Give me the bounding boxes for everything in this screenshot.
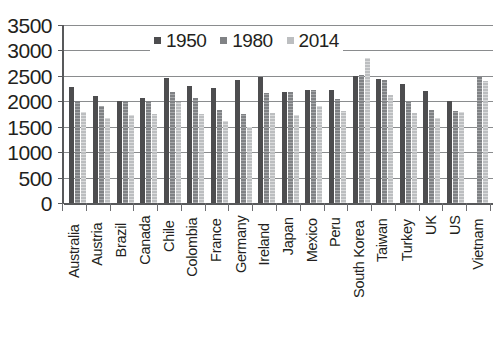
- bar-1980-japan: [288, 92, 293, 203]
- bar-1950-colombia: [187, 86, 192, 203]
- bar-1950-mexico: [305, 90, 310, 203]
- bar-2014-peru: [341, 111, 346, 203]
- bar-1980-france: [217, 110, 222, 203]
- x-axis-label-japan: Japan: [279, 210, 297, 314]
- bars-layer: [64, 25, 492, 203]
- bar-group: [113, 25, 137, 203]
- x-axis-label-text: UK: [423, 215, 438, 235]
- bar-1980-brazil: [123, 101, 128, 203]
- bar-1950-turkey: [400, 84, 405, 204]
- category-tick: [490, 203, 491, 211]
- x-axis-label-text: France: [209, 218, 224, 261]
- bar-2014-germany: [247, 127, 252, 203]
- x-axis-label-text: Mexico: [304, 218, 319, 262]
- series-2014-swatch: [287, 37, 294, 44]
- y-tick-label: 3500: [7, 15, 52, 36]
- x-axis-label-us: US: [445, 210, 463, 314]
- bar-group: [302, 25, 326, 203]
- y-tick-label: 3000: [7, 40, 52, 61]
- x-axis-label-text: Turkey: [400, 219, 415, 261]
- x-axis-label-australia: Australia: [65, 210, 83, 314]
- x-axis-label-mexico: Mexico: [303, 210, 321, 314]
- bar-1980-mexico: [311, 90, 316, 203]
- x-axis-label-south-korea: South Korea: [350, 210, 368, 314]
- x-axis-label-chile: Chile: [160, 210, 178, 314]
- x-axis: AustraliaAustriaBrazilCanadaChileColombi…: [62, 210, 490, 315]
- x-axis-label-text: Japan: [281, 217, 296, 255]
- bar-group: [326, 25, 350, 203]
- plot-area: [62, 25, 492, 203]
- bar-1980-us: [453, 111, 458, 203]
- bar-1950-austria: [93, 96, 98, 203]
- x-axis-label-taiwan: Taiwan: [374, 210, 392, 314]
- bar-1950-brazil: [117, 101, 122, 203]
- x-axis-label-colombia: Colombia: [184, 210, 202, 314]
- bar-group: [137, 25, 161, 203]
- x-axis-label-text: Peru: [328, 218, 343, 247]
- bar-group: [444, 25, 468, 203]
- bar-group: [66, 25, 90, 203]
- bar-1950-taiwan: [376, 79, 381, 203]
- x-axis-label-text: Vietnam: [471, 218, 486, 269]
- bar-group: [255, 25, 279, 203]
- x-axis-label-turkey: Turkey: [398, 210, 416, 314]
- x-axis-label-canada: Canada: [136, 210, 154, 314]
- bar-1950-us: [447, 101, 452, 203]
- legend-item-1950[interactable]: 1950: [154, 31, 206, 50]
- x-axis-label-germany: Germany: [231, 210, 249, 314]
- bar-2014-us: [459, 112, 464, 203]
- chart-legend: 195019802014: [150, 30, 343, 51]
- bar-group: [278, 25, 302, 203]
- x-axis-label-text: Brazil: [114, 223, 129, 257]
- bar-1980-turkey: [406, 102, 411, 203]
- x-axis-label-text: Colombia: [186, 218, 201, 277]
- bar-group: [420, 25, 444, 203]
- bar-group: [373, 25, 397, 203]
- y-tick-label: 2000: [7, 91, 52, 112]
- bar-1950-australia: [69, 87, 74, 203]
- legend-label: 1980: [232, 31, 272, 50]
- x-axis-label-text: Germany: [233, 215, 248, 273]
- x-axis-label-text: Chile: [162, 220, 177, 252]
- bar-2014-japan: [294, 115, 299, 203]
- bar-1980-australia: [75, 101, 80, 203]
- bar-1950-ireland: [258, 77, 263, 203]
- x-axis-label-austria: Austria: [89, 210, 107, 314]
- bar-1980-peru: [335, 99, 340, 203]
- bar-2014-australia: [81, 112, 86, 203]
- bar-1980-canada: [146, 101, 151, 203]
- bar-1980-germany: [241, 114, 246, 204]
- x-axis-label-france: France: [208, 210, 226, 314]
- x-axis-label-ireland: Ireland: [255, 210, 273, 314]
- x-axis-label-text: Ireland: [257, 223, 272, 265]
- legend-item-1980[interactable]: 1980: [220, 31, 272, 50]
- bar-1980-south-korea: [359, 75, 364, 203]
- legend-item-2014[interactable]: 2014: [287, 31, 339, 50]
- x-axis-label-text: Austria: [90, 222, 105, 265]
- bar-1950-germany: [235, 80, 240, 203]
- bar-2014-south-korea: [365, 58, 370, 203]
- bar-2014-turkey: [412, 113, 417, 203]
- legend-label: 2014: [299, 31, 339, 50]
- x-axis-label-brazil: Brazil: [112, 210, 130, 314]
- bar-2014-uk: [435, 118, 440, 203]
- bar-2014-ireland: [270, 113, 275, 203]
- bar-group: [90, 25, 114, 203]
- bar-group: [231, 25, 255, 203]
- bar-2014-chile: [176, 102, 181, 203]
- y-axis: 0500100015002000250030003500: [0, 0, 62, 215]
- bar-1980-vietnam: [477, 77, 482, 203]
- bar-2014-taiwan: [388, 95, 393, 203]
- bar-2014-brazil: [129, 115, 134, 203]
- bar-2014-colombia: [199, 114, 204, 204]
- legend-label: 1950: [166, 31, 206, 50]
- bar-group: [208, 25, 232, 203]
- bar-1950-japan: [282, 92, 287, 203]
- bar-group: [349, 25, 373, 203]
- bar-group: [160, 25, 184, 203]
- bar-2014-canada: [152, 114, 157, 204]
- x-axis-label-text: Canada: [138, 216, 153, 265]
- bar-1950-uk: [423, 91, 428, 203]
- y-tick-label: 0: [41, 193, 52, 214]
- x-axis-label-text: South Korea: [352, 220, 367, 297]
